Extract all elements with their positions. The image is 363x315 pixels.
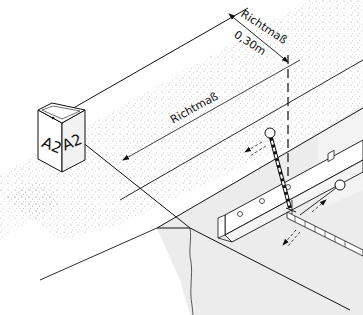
diagram-canvas: A2 A2 Richtmaß Richtmaß 0,30m — [0, 0, 363, 315]
survey-marker-block: A2 A2 — [38, 103, 85, 172]
marker-center-point — [52, 117, 55, 120]
